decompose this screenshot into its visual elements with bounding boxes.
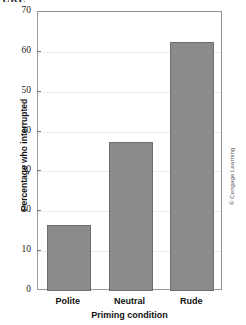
x-tick-label-neutral: Neutral bbox=[99, 296, 161, 306]
y-tick-label: 70 bbox=[5, 6, 31, 16]
y-tick-mark bbox=[37, 91, 41, 92]
clipped-caption-text: URE bbox=[2, 0, 26, 2]
y-tick-mark bbox=[37, 131, 41, 132]
y-tick-label: 20 bbox=[5, 205, 31, 215]
y-tick-label: 40 bbox=[5, 126, 31, 136]
y-tick-label: 50 bbox=[5, 86, 31, 96]
y-tick-label: 30 bbox=[5, 165, 31, 175]
y-tick-mark bbox=[37, 170, 41, 171]
bar-neutral bbox=[109, 142, 153, 291]
bar-polite bbox=[47, 225, 91, 291]
y-tick-mark bbox=[37, 210, 41, 211]
x-axis-title: Priming condition bbox=[37, 310, 222, 320]
y-tick-label: 0 bbox=[5, 285, 31, 295]
plot-area bbox=[37, 11, 222, 290]
bar-rude bbox=[170, 42, 214, 291]
bar-chart-figure: URE Percentage who interrupted 010203040… bbox=[0, 0, 246, 325]
y-tick-mark bbox=[37, 250, 41, 251]
y-tick-label: 10 bbox=[5, 245, 31, 255]
y-tick-mark bbox=[37, 51, 41, 52]
x-tick-label-rude: Rude bbox=[160, 296, 222, 306]
y-tick-label: 60 bbox=[5, 46, 31, 56]
x-tick-label-polite: Polite bbox=[37, 296, 99, 306]
copyright-credit: © Cengage Learning bbox=[229, 115, 235, 205]
